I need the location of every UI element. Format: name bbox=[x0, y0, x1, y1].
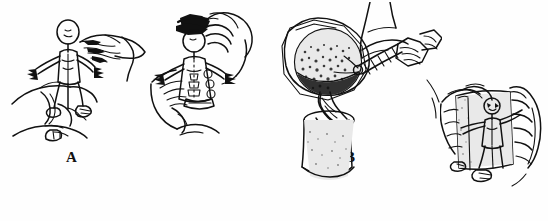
illustration-figure: A bbox=[0, 0, 548, 221]
panel-c: C bbox=[272, 2, 442, 187]
hands-capping-figurine-icon bbox=[150, 8, 275, 148]
hands-holding-figurine-icon bbox=[10, 8, 150, 148]
panel-d: D bbox=[440, 78, 548, 196]
panel-label-a: A bbox=[66, 150, 77, 165]
hands-holding-mould-icon bbox=[440, 78, 548, 196]
pouring-crucible-icon bbox=[272, 2, 442, 187]
panel-a: A bbox=[10, 8, 150, 148]
panel-b: B bbox=[150, 8, 275, 148]
